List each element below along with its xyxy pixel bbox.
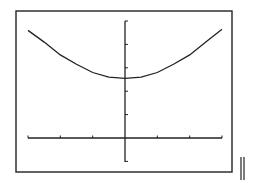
axes: [28, 21, 222, 162]
graph-frame: [16, 11, 232, 172]
calculator-graph-screen: [0, 0, 255, 190]
double-bar-icon: [241, 157, 244, 180]
